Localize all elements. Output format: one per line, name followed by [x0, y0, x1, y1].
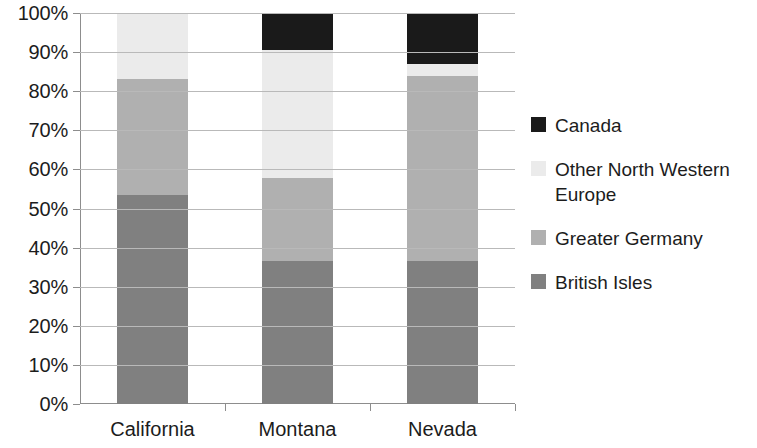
- legend-swatch-icon: [531, 117, 546, 132]
- gridline: [80, 248, 515, 249]
- y-tick-label: 100%: [18, 3, 68, 23]
- gridline: [80, 91, 515, 92]
- gridline: [80, 209, 515, 210]
- legend-swatch-icon: [531, 161, 546, 176]
- bar-segment[interactable]: [407, 261, 478, 404]
- y-tick-mark: [73, 326, 80, 327]
- bar-segment[interactable]: [117, 195, 188, 404]
- y-tick-label: 60%: [29, 159, 68, 179]
- y-tick-mark: [73, 169, 80, 170]
- y-tick-label: 30%: [29, 277, 68, 297]
- legend-swatch-icon: [531, 274, 546, 289]
- gridline: [80, 326, 515, 327]
- y-axis: 0%10%20%30%40%50%60%70%80%90%100%: [0, 0, 78, 448]
- x-axis: CaliforniaMontanaNevada: [80, 414, 515, 448]
- y-tick-label: 90%: [29, 42, 68, 62]
- y-tick-mark: [73, 248, 80, 249]
- gridline: [80, 52, 515, 53]
- legend-label: Canada: [555, 113, 622, 138]
- gridline: [80, 365, 515, 366]
- y-tick-mark: [73, 13, 80, 14]
- x-tick-label: Nevada: [408, 416, 477, 442]
- legend-item[interactable]: British Isles: [531, 270, 755, 295]
- legend-swatch-icon: [531, 230, 546, 245]
- x-tick-mark: [225, 404, 226, 411]
- y-tick-mark: [73, 404, 80, 405]
- x-tick-label: Montana: [259, 416, 337, 442]
- legend-label: Greater Germany: [555, 226, 703, 251]
- legend-label: Other North Western Europe: [555, 157, 755, 207]
- chart-legend: CanadaOther North Western EuropeGreater …: [531, 113, 755, 314]
- y-tick-label: 40%: [29, 238, 68, 258]
- gridline: [80, 130, 515, 131]
- bar-segment[interactable]: [407, 64, 478, 76]
- y-tick-mark: [73, 52, 80, 53]
- legend-label: British Isles: [555, 270, 652, 295]
- bar-segment[interactable]: [407, 76, 478, 261]
- y-tick-mark: [73, 209, 80, 210]
- bar-segment[interactable]: [262, 261, 333, 404]
- y-tick-mark: [73, 130, 80, 131]
- legend-item[interactable]: Greater Germany: [531, 226, 755, 251]
- y-tick-label: 10%: [29, 355, 68, 375]
- y-tick-label: 20%: [29, 316, 68, 336]
- bar-segment[interactable]: [262, 50, 333, 178]
- y-tick-mark: [73, 91, 80, 92]
- y-tick-label: 0%: [39, 394, 68, 414]
- bar-segment[interactable]: [262, 13, 333, 50]
- legend-item[interactable]: Canada: [531, 113, 755, 138]
- legend-item[interactable]: Other North Western Europe: [531, 157, 755, 207]
- bar-segment[interactable]: [117, 79, 188, 195]
- gridline: [80, 13, 515, 14]
- y-tick-mark: [73, 365, 80, 366]
- y-tick-label: 80%: [29, 81, 68, 101]
- y-tick-label: 50%: [29, 199, 68, 219]
- y-tick-mark: [73, 287, 80, 288]
- x-tick-mark: [370, 404, 371, 411]
- x-tick-mark: [515, 404, 516, 411]
- gridline: [80, 287, 515, 288]
- plot-area: [80, 13, 515, 404]
- stacked-bar-chart: 0%10%20%30%40%50%60%70%80%90%100% Califo…: [0, 0, 757, 448]
- x-tick-label: California: [110, 416, 194, 442]
- gridline: [80, 169, 515, 170]
- bar-segment[interactable]: [407, 13, 478, 64]
- y-tick-label: 70%: [29, 120, 68, 140]
- bar-segment[interactable]: [117, 13, 188, 79]
